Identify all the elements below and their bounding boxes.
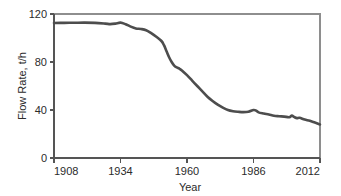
y-tick-label-0: 0 xyxy=(41,152,47,164)
chart-canvas: 0 40 80 120 1908 1934 1960 1986 2012 Yea… xyxy=(0,0,341,196)
y-tick-label-120: 120 xyxy=(29,8,47,20)
x-tick-label-1934: 1934 xyxy=(108,165,132,177)
x-tick-label-1960: 1960 xyxy=(175,165,199,177)
flow-rate-series-line xyxy=(54,23,320,125)
x-axis-ticks xyxy=(54,158,320,163)
y-tick-label-40: 40 xyxy=(35,104,47,116)
x-axis-title: Year xyxy=(179,181,202,193)
x-tick-label-1908: 1908 xyxy=(54,165,78,177)
y-tick-label-80: 80 xyxy=(35,56,47,68)
x-tick-label-2012: 2012 xyxy=(296,165,320,177)
y-axis-tick-labels: 0 40 80 120 xyxy=(29,8,47,164)
flow-rate-line-chart: 0 40 80 120 1908 1934 1960 1986 2012 Yea… xyxy=(0,0,341,196)
x-axis-tick-labels: 1908 1934 1960 1986 2012 xyxy=(54,165,320,177)
plot-frame-top-right xyxy=(54,14,320,158)
x-tick-label-1986: 1986 xyxy=(241,165,265,177)
y-axis-title: Flow Rate, t/h xyxy=(16,52,28,120)
